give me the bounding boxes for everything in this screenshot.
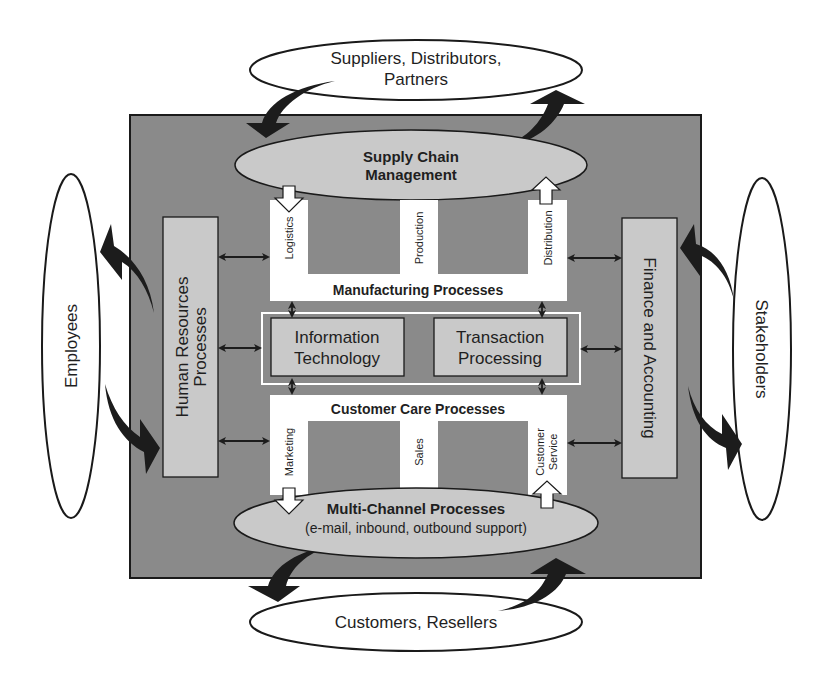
finance-label: Finance and Accounting	[640, 257, 659, 438]
multi-channel-label-2: (e-mail, inbound, outbound support)	[305, 520, 527, 536]
multi-channel-label-1: Multi-Channel Processes	[327, 500, 505, 517]
supply-chain-label-2: Management	[365, 166, 457, 183]
hr-label-1: Human Resources	[173, 277, 192, 418]
employees-ellipse: Employees	[42, 174, 100, 518]
customer-label: Customer	[534, 428, 546, 476]
stakeholders-label: Stakeholders	[752, 299, 771, 398]
stakeholders-ellipse: Stakeholders	[733, 178, 791, 520]
it-label-1: Information	[294, 328, 379, 347]
customers-label: Customers, Resellers	[335, 613, 498, 632]
center-systems: Information Technology Transaction Proce…	[262, 313, 580, 384]
tp-label-1: Transaction	[456, 328, 544, 347]
supply-chain-label-1: Supply Chain	[363, 148, 459, 165]
service-label: Service	[547, 434, 559, 471]
employees-label: Employees	[62, 304, 81, 388]
suppliers-label-2: Partners	[384, 70, 448, 89]
logistics-label: Logistics	[283, 216, 295, 259]
tp-label-2: Processing	[458, 349, 542, 368]
human-resources-box: Human Resources Processes	[163, 217, 218, 477]
customer-care-title: Customer Care Processes	[331, 401, 506, 417]
marketing-label: Marketing	[283, 428, 295, 476]
manufacturing-title: Manufacturing Processes	[333, 282, 504, 298]
hr-label-2: Processes	[191, 307, 210, 386]
sales-label: Sales	[413, 438, 425, 466]
enterprise-process-diagram: Suppliers, Distributors, Partners Custom…	[0, 0, 828, 696]
finance-accounting-box: Finance and Accounting	[622, 218, 677, 478]
production-label: Production	[413, 212, 425, 265]
distribution-label: Distribution	[542, 210, 554, 265]
suppliers-label-1: Suppliers, Distributors,	[330, 49, 501, 68]
it-label-2: Technology	[294, 349, 381, 368]
